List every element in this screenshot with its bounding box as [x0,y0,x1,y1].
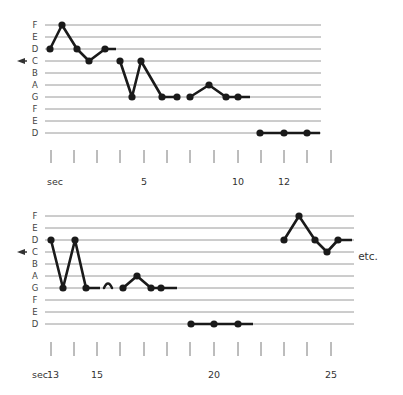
note-point [101,45,108,52]
note-point [280,129,287,136]
pitch-label: G [32,283,39,293]
pitch-label: A [32,271,38,281]
note-point [58,21,65,28]
note-point [173,93,180,100]
note-point [334,236,341,243]
time-label: 20 [208,369,220,380]
time-label: sec [32,369,48,380]
note-point [323,248,330,255]
note-point [205,81,212,88]
note-point [73,45,80,52]
system-2: FEDCBAGFEDsec13152025etc. [17,211,378,380]
contour-line [120,61,177,97]
time-label: 13 [47,369,59,380]
note-point [234,93,241,100]
note-point [222,93,229,100]
note-point [71,236,78,243]
pitch-label: D [32,319,39,329]
note-point [133,272,140,279]
note-point [46,45,53,52]
note-point [256,129,263,136]
time-label: 25 [325,369,337,380]
system-1: FEDCBAGFEDsec51012 [17,20,331,187]
pitch-label: E [32,116,37,126]
time-label: 15 [91,369,103,380]
time-label: 12 [278,176,290,187]
contour-line [50,25,116,61]
time-label: sec [47,176,63,187]
pitch-label: F [33,20,38,30]
pitch-label: G [32,92,39,102]
note-point [158,93,165,100]
note-point [47,236,54,243]
pitch-label: F [33,211,38,221]
pitch-label: C [32,56,38,66]
pitch-label: B [32,68,38,78]
note-point [187,320,194,327]
pitch-contour-diagram: FEDCBAGFEDsec51012 FEDCBAGFEDsec13152025… [0,0,403,395]
pitch-label: E [32,223,37,233]
note-point [186,93,193,100]
etc-label: etc. [358,250,378,262]
note-point [119,284,126,291]
pitch-label: B [32,259,38,269]
note-point [234,320,241,327]
note-point [59,284,66,291]
pitch-label: C [32,247,38,257]
note-point [311,236,318,243]
pitch-label: D [32,128,39,138]
pitch-label: A [32,80,38,90]
pitch-label: E [32,307,37,317]
time-label: 10 [232,176,244,187]
time-label: 5 [141,176,147,187]
note-point [82,284,89,291]
pitch-label: D [32,235,39,245]
pitch-label: F [33,295,38,305]
pitch-label: F [33,104,38,114]
note-point [210,320,217,327]
note-point [280,236,287,243]
note-point [128,93,135,100]
note-point [303,129,310,136]
note-point [85,57,92,64]
glide-arc [104,284,112,289]
note-point [116,57,123,64]
pitch-label: E [32,32,37,42]
pitch-label: D [32,44,39,54]
note-point [147,284,154,291]
note-point [137,57,144,64]
contour-line [284,216,352,252]
note-point [157,284,164,291]
note-point [295,212,302,219]
